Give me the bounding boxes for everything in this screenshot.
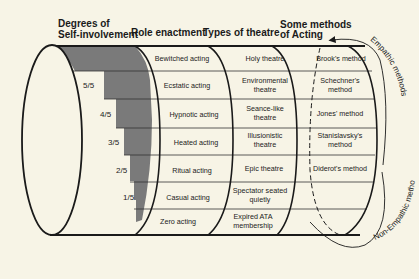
method-cell: Jones' method [317,109,364,118]
role-cell: Zero acting [160,217,196,226]
method-cell: method [328,140,352,149]
header-self-involvement-line2: Self-involvement [58,29,139,40]
method-cell: Stanislavsky's [318,131,363,140]
role-cell: Casual acting [166,193,210,202]
method-cell: Diderot's method [313,164,367,173]
role-cell: Heated acting [174,138,218,147]
theatre-cell: theatre [254,113,276,122]
theatre-cell: Illusionistic [248,131,283,140]
theatre-cell: Spectator seated [233,186,287,195]
theatre-cell: Epic theatre [245,164,283,173]
header-self-involvement-line1: Degrees of [58,18,110,29]
theatre-cell: quietly [250,195,271,204]
header-methods-line2: of Acting [280,29,323,40]
empathic-methods-label: Empathic methods [369,35,409,97]
role-cell: Bewitched acting [155,54,209,63]
theatre-cell: theatre [254,140,276,149]
types-of-theatre-column: Holy theatre Environmental theatre Seanc… [233,54,289,230]
cylinder-front-face [22,45,82,235]
theatre-cell: Holy theatre [246,54,285,63]
role-enactment-column: Bewitched acting Ecstatic acting Hypnoti… [155,54,219,226]
theatre-cylinder-diagram: Degrees of Self-involvement Role enactme… [0,0,419,279]
role-cell: Ecstatic acting [164,81,210,90]
degree-3-5: 3/5 [108,138,120,147]
degree-5-5: 5/5 [83,81,95,90]
degree-2-5: 2/5 [116,166,128,175]
theatre-cell: Seance-like [246,104,284,113]
theatre-cell: membership [233,221,273,230]
method-cell: method [328,85,352,94]
theatre-cell: Expired ATA [234,212,273,221]
theatre-cell: theatre [254,85,276,94]
role-cell: Hypnotic acting [169,110,218,119]
theatre-cell: Environmental [242,76,288,85]
header-types-of-theatre: Types of theatre [203,27,280,38]
header-role-enactment: Role enactment [131,27,206,38]
degree-1-5: 1/5 [123,193,135,202]
method-cell: Brook's method [316,54,366,63]
role-cell: Ritual acting [172,166,212,175]
degree-4-5: 4/5 [100,110,112,119]
method-cell: Schechner's [320,76,360,85]
